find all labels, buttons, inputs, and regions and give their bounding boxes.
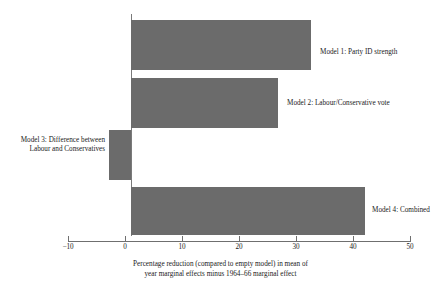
x-axis-tick-label: 10 <box>167 243 197 251</box>
bar-model-4 <box>131 187 365 235</box>
x-axis-tick-label: −10 <box>53 243 83 251</box>
x-axis-caption: Percentage reduction (compared to empty … <box>0 259 441 279</box>
bar-model-1 <box>131 20 311 70</box>
bar-label-model-2: Model 2: Labour/Conservative vote <box>287 99 439 108</box>
bar-label-model-3: Model 3: Difference between Labour and C… <box>3 136 105 154</box>
x-axis-tick-label: 50 <box>395 243 425 251</box>
bar-label-model-4: Model 4: Combined <box>372 206 440 215</box>
x-axis-tick <box>296 236 297 241</box>
x-axis-tick-label: 20 <box>224 243 254 251</box>
x-axis-tick-label: 30 <box>281 243 311 251</box>
bar-label-model-1: Model 1: Party ID strength <box>320 48 438 57</box>
x-axis-tick <box>68 236 69 241</box>
bar-model-3 <box>109 130 131 180</box>
x-axis-tick-label: 40 <box>338 243 368 251</box>
bar-model-2 <box>131 78 278 128</box>
x-axis-tick <box>239 236 240 241</box>
x-axis-tick <box>125 236 126 241</box>
bar-chart-figure: Model 1: Party ID strength Model 2: Labo… <box>0 0 441 294</box>
x-axis-tick <box>410 236 411 241</box>
x-axis-line <box>68 241 411 242</box>
x-axis-tick <box>353 236 354 241</box>
plot-area: Model 1: Party ID strength Model 2: Labo… <box>0 0 441 294</box>
x-axis-tick-label: 0 <box>110 243 140 251</box>
x-axis-tick <box>182 236 183 241</box>
